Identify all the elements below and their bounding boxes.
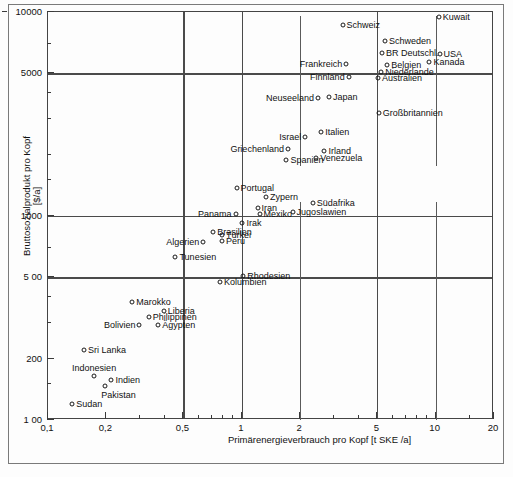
data-point[interactable]	[92, 373, 97, 378]
x-tick-minor	[405, 415, 406, 419]
gridline-vertical-minor	[300, 16, 301, 166]
x-tick-minor	[211, 415, 212, 419]
gridline-vertical-minor	[436, 202, 437, 420]
data-point-label: Neuseeland	[266, 93, 314, 102]
x-tick-major	[376, 412, 377, 419]
data-point[interactable]	[201, 239, 206, 244]
data-point-label: Israel	[279, 133, 301, 142]
x-tick-major	[182, 412, 183, 419]
x-tick-minor	[139, 415, 140, 419]
data-point[interactable]	[290, 209, 295, 214]
y-tick-major	[47, 11, 54, 12]
gridline-vertical-minor	[436, 16, 437, 166]
y-tick-minor	[47, 118, 51, 119]
data-point[interactable]	[220, 232, 225, 237]
data-point[interactable]	[375, 75, 380, 80]
data-point-label: Australien	[382, 73, 422, 82]
data-point-label: Venezuela	[320, 154, 362, 163]
data-point[interactable]	[326, 94, 331, 99]
y-tick-major	[47, 72, 54, 73]
data-point[interactable]	[319, 130, 324, 135]
y-tick-label: 5000	[0, 67, 42, 78]
data-point[interactable]	[220, 239, 225, 244]
data-point[interactable]	[340, 23, 345, 28]
data-point[interactable]	[427, 59, 432, 64]
data-point[interactable]	[380, 51, 385, 56]
data-point[interactable]	[109, 378, 114, 383]
data-point[interactable]	[211, 229, 216, 234]
data-point[interactable]	[81, 347, 86, 352]
data-point-label: Großbritannien	[383, 109, 443, 118]
data-point-label: Marokko	[136, 297, 171, 306]
data-point[interactable]	[436, 15, 441, 20]
data-point[interactable]	[233, 212, 238, 217]
x-tick-label: 5	[374, 422, 379, 433]
data-point[interactable]	[103, 384, 108, 389]
data-point[interactable]	[303, 135, 308, 140]
y-axis-label: Bruttosozialprodukt pro Kopf [$/a]	[22, 136, 42, 256]
x-tick-label: 20	[488, 422, 499, 433]
y-tick-major	[47, 215, 54, 216]
data-point[interactable]	[310, 200, 315, 205]
y-tick-label: 200	[0, 352, 42, 363]
data-point[interactable]	[344, 61, 349, 66]
data-point[interactable]	[217, 279, 222, 284]
data-point-label: Schweiz	[347, 21, 381, 30]
y-tick-minor	[47, 322, 51, 323]
data-point[interactable]	[346, 74, 351, 79]
data-point-label: Algerien	[166, 237, 199, 246]
x-tick-major	[105, 412, 106, 419]
x-tick-minor	[222, 415, 223, 419]
y-tick-major	[47, 276, 54, 277]
y-tick-minor	[47, 154, 51, 155]
data-point[interactable]	[156, 322, 161, 327]
x-tick-label: 0,2	[99, 422, 112, 433]
data-point-label: Spanien	[290, 156, 323, 165]
data-point-label: Japan	[333, 92, 358, 101]
data-point[interactable]	[146, 314, 151, 319]
y-tick-label: 1000	[0, 210, 42, 221]
x-tick-label: 0,1	[40, 422, 53, 433]
x-tick-label: 1	[238, 422, 243, 433]
x-tick-minor	[232, 415, 233, 419]
data-point[interactable]	[285, 147, 290, 152]
x-tick-minor	[469, 415, 470, 419]
x-tick-major	[435, 412, 436, 419]
data-point-label: Ägypten	[162, 320, 195, 329]
data-point[interactable]	[284, 158, 289, 163]
x-tick-label: 10	[429, 422, 440, 433]
data-point-label: Indien	[115, 376, 140, 385]
y-tick-minor	[47, 296, 51, 297]
data-point-label: BR Deutschl.	[386, 49, 439, 58]
y-tick-minor	[47, 383, 51, 384]
data-point-label: Zypern	[270, 193, 298, 202]
data-point-label: Tunesien	[179, 253, 216, 262]
data-point[interactable]	[130, 299, 135, 304]
data-point-label: Panama	[198, 210, 232, 219]
data-point[interactable]	[315, 95, 320, 100]
x-tick-minor	[164, 415, 165, 419]
x-tick-minor	[392, 415, 393, 419]
data-point[interactable]	[255, 206, 260, 211]
data-point[interactable]	[257, 212, 262, 217]
data-point-label: Kanada	[433, 57, 464, 66]
data-point[interactable]	[376, 111, 381, 116]
chart-page: Bruttosozialprodukt pro Kopf [$/a] Primä…	[0, 0, 513, 477]
data-point-label: Griechenland	[230, 145, 284, 154]
data-point[interactable]	[383, 39, 388, 44]
data-point-label: Frankreich	[300, 59, 343, 68]
data-point-label: Italien	[325, 128, 349, 137]
data-point[interactable]	[173, 255, 178, 260]
gridline-vertical-minor	[300, 202, 301, 420]
data-point-label: Kuwait	[443, 13, 470, 22]
data-point[interactable]	[234, 186, 239, 191]
data-point-label: Bolivien	[104, 320, 136, 329]
x-tick-minor	[333, 415, 334, 419]
data-point-label: Schweden	[389, 37, 431, 46]
x-tick-minor	[198, 415, 199, 419]
data-point[interactable]	[264, 195, 269, 200]
data-point[interactable]	[70, 402, 75, 407]
x-tick-major	[299, 412, 300, 419]
data-point[interactable]	[137, 322, 142, 327]
y-tick-major	[47, 419, 54, 420]
